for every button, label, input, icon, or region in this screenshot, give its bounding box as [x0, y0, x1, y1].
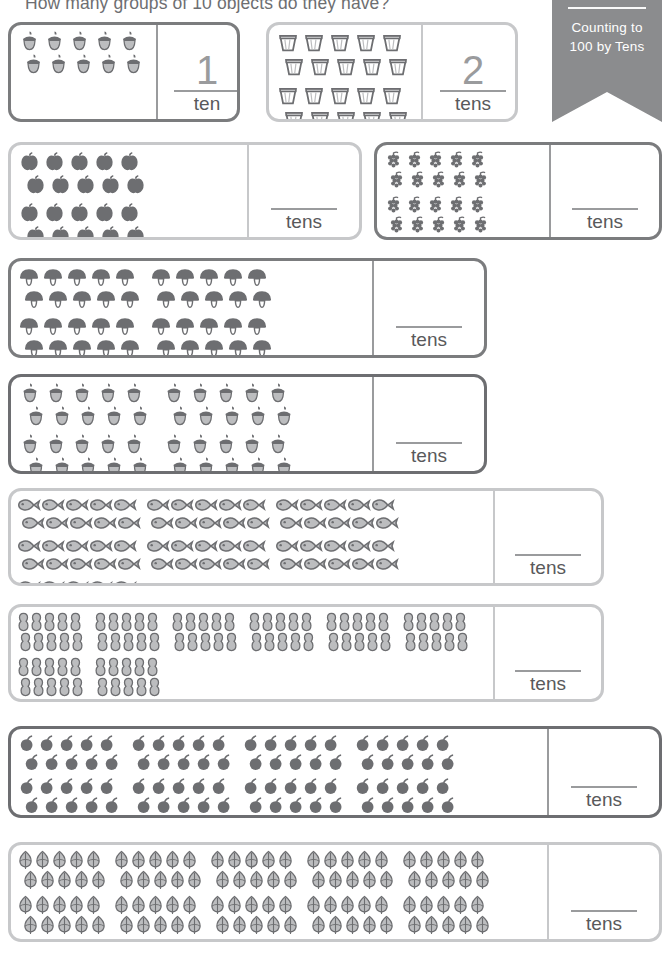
cherry-icon — [42, 796, 62, 815]
fish-icon — [218, 537, 242, 555]
answer-blank-line[interactable] — [571, 786, 637, 788]
cherry-icon — [57, 734, 77, 753]
leaf-icon — [164, 850, 181, 870]
mushroom-icon — [245, 315, 269, 337]
leaf-icon — [452, 850, 469, 870]
peanut-icon — [327, 632, 340, 652]
answer-blank-line[interactable] — [515, 670, 581, 672]
leaf-icon — [68, 850, 85, 870]
leaf-icon — [56, 870, 73, 890]
answer-box[interactable]: tens — [549, 845, 659, 939]
answer-box[interactable]: 1ten — [158, 25, 240, 119]
fish-icon — [93, 555, 117, 573]
answer-box[interactable]: tens — [495, 491, 601, 583]
peanut-icon — [274, 612, 287, 632]
leaf-icon — [260, 895, 277, 915]
fish-icon — [303, 555, 327, 573]
fish-icon — [246, 514, 270, 532]
leaf-icon — [344, 915, 361, 935]
group-of-ten — [17, 578, 141, 586]
group-of-ten — [402, 612, 469, 652]
problem-card: tens — [8, 842, 662, 942]
mushroom-icon — [113, 315, 137, 337]
group-of-ten — [275, 83, 411, 122]
answer-blank-line[interactable] — [396, 442, 462, 444]
answer-box[interactable]: tens — [551, 145, 659, 237]
mushroom-icon — [226, 337, 250, 358]
apple-icon — [117, 150, 142, 173]
group-of-ten — [275, 30, 411, 78]
fish-icon — [174, 555, 198, 573]
mushroom-icon — [70, 337, 94, 358]
peanut-icon — [109, 677, 122, 697]
mushroom-icon — [41, 266, 65, 288]
leaf-icon — [169, 870, 186, 890]
fish-icon — [194, 537, 218, 555]
leaf-icon — [181, 850, 198, 870]
bucket-icon — [327, 83, 353, 107]
apple-icon — [17, 150, 42, 173]
cherry-icon — [241, 734, 261, 753]
answer-blank-line[interactable] — [572, 208, 638, 210]
peanut-icon — [56, 612, 69, 632]
group-of-ten — [129, 777, 234, 815]
acorn-icon — [101, 456, 127, 474]
cherry-icon — [413, 777, 433, 796]
peanut-icon — [17, 612, 30, 632]
group-of-ten — [305, 895, 395, 935]
answer-box[interactable]: tens — [549, 729, 659, 815]
answer-box[interactable]: tens — [495, 607, 601, 699]
acorn-icon — [23, 456, 49, 474]
answer-box[interactable]: tens — [249, 145, 359, 237]
group-of-ten — [275, 496, 399, 532]
group-of-ten — [17, 266, 142, 310]
group-of-ten — [94, 612, 161, 652]
answer-unit-label: ten — [194, 93, 220, 115]
leaf-icon — [17, 895, 34, 915]
grapes-icon — [428, 215, 449, 235]
problem-card: tens — [8, 142, 362, 240]
answer-box[interactable]: tens — [374, 261, 484, 355]
grapes-icon — [407, 215, 428, 235]
cherry-icon — [169, 734, 189, 753]
peanut-icon — [32, 677, 45, 697]
answer-box[interactable]: tens — [374, 377, 484, 471]
cherry-icon — [194, 753, 214, 772]
answer-blank-line[interactable] — [271, 208, 337, 210]
answer-box[interactable]: 2tens — [423, 25, 518, 119]
group-of-ten — [161, 382, 297, 428]
fish-icon — [323, 537, 347, 555]
leaf-icon — [327, 870, 344, 890]
group-of-ten — [161, 433, 297, 474]
fish-icon — [242, 537, 266, 555]
answer-blank-line[interactable] — [571, 910, 637, 912]
leaf-icon — [118, 870, 135, 890]
page-title: How many groups of 10 objects do they ha… — [25, 0, 389, 14]
cherry-icon — [433, 734, 453, 753]
leaf-icon — [469, 850, 486, 870]
peanut-icon — [94, 612, 107, 632]
answer-blank-line[interactable] — [440, 90, 506, 92]
object-group-area — [377, 145, 551, 237]
acorn-icon — [121, 382, 147, 405]
peanut-icon — [56, 657, 69, 677]
leaf-icon — [135, 870, 152, 890]
group-of-ten — [129, 734, 234, 772]
group-of-ten — [17, 895, 107, 935]
fish-icon — [351, 555, 375, 573]
mushroom-icon — [250, 337, 274, 358]
acorn-icon — [265, 433, 291, 456]
leaf-icon — [73, 870, 90, 890]
fish-icon — [371, 496, 395, 514]
grapes-icon — [383, 195, 404, 215]
peanut-icon — [107, 657, 120, 677]
answer-blank-line[interactable] — [396, 326, 462, 328]
leaf-icon — [373, 895, 390, 915]
leaf-icon — [90, 915, 107, 935]
cherry-icon — [266, 796, 286, 815]
cherry-icon — [169, 777, 189, 796]
answer-blank-line[interactable] — [174, 90, 240, 92]
answer-blank-line[interactable] — [515, 554, 581, 556]
banner-line-1: Counting to — [558, 18, 656, 37]
group-of-ten — [94, 657, 161, 697]
